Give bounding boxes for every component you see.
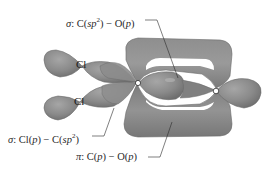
- superscript: 2: [97, 16, 101, 24]
- atom: O: [115, 18, 123, 29]
- greek-pi: π: [76, 151, 81, 162]
- cl-atom-label-upper: Cl: [76, 59, 86, 70]
- cl-lower-orbitals: [44, 82, 136, 120]
- cl-atom-label-lower: Cl: [74, 96, 84, 107]
- annotation-sigma-cl-p-c-sp2: σ: Cl(p) − C(sp2): [8, 130, 79, 146]
- orbital: p: [126, 18, 131, 29]
- atom: O: [117, 151, 125, 162]
- atom: Cl: [19, 134, 29, 145]
- orbital: p: [97, 151, 102, 162]
- greek-sigma: σ: [66, 18, 71, 29]
- cl-upper-orbitals: [44, 50, 136, 83]
- oxygen-atom-center: [213, 88, 219, 94]
- orbital: p: [128, 151, 133, 162]
- carbon-atom-center: [135, 80, 140, 85]
- atom: C: [87, 151, 94, 162]
- orbital: p: [32, 134, 37, 145]
- annotation-pi-c-p-o-p: π: C(p) − O(p): [76, 151, 137, 163]
- superscript: 2: [72, 132, 76, 140]
- orbital: sp: [87, 18, 96, 29]
- sigma-c-o-orbital: [138, 72, 215, 100]
- leader-line-sigma-cl-c: [92, 108, 114, 136]
- greek-sigma: σ: [8, 134, 13, 145]
- orbital: sp: [63, 134, 72, 145]
- atom: C: [52, 134, 59, 145]
- annotation-sigma-c-sp2-o-p: σ: C(sp2) − O(p): [66, 14, 135, 30]
- atom: C: [77, 18, 84, 29]
- orbital-diagram: [0, 0, 272, 175]
